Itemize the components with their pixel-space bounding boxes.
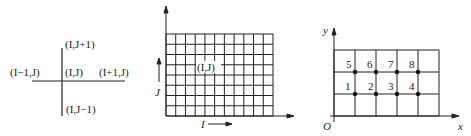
node-dot-icon xyxy=(353,92,357,96)
y-axis-label: y xyxy=(322,24,328,36)
i-axis-label: I xyxy=(200,118,206,130)
node-label-5: 5 xyxy=(346,58,352,70)
node-dot-icon xyxy=(416,92,420,96)
node-label-7: 7 xyxy=(388,58,394,70)
node-dot-icon xyxy=(353,70,357,74)
node-label-8: 8 xyxy=(409,58,415,70)
y-axis-arrow-icon xyxy=(332,28,336,35)
node-label-2: 2 xyxy=(368,80,374,92)
node-dot-icon xyxy=(374,92,378,96)
node-label-4: 4 xyxy=(409,80,415,92)
diagram-canvas: (I,J+1) (I−1,J) (I,J) (I+1,J) (I,J−1) (I… xyxy=(0,0,471,136)
node-label-3: 3 xyxy=(388,80,394,92)
origin-label: O xyxy=(323,120,331,132)
index-grid xyxy=(166,34,273,116)
j-direction-arrow-icon xyxy=(157,58,161,64)
i-direction-arrow-icon xyxy=(226,122,232,126)
stencil-top-label: (I,J+1) xyxy=(65,38,95,51)
x-axis-arrow-icon xyxy=(452,114,459,118)
x-axis-label: x xyxy=(457,120,463,132)
grid-y-axis-arrow-icon xyxy=(164,6,168,13)
numbered-grid-axes xyxy=(330,28,459,122)
stencil-left-label: (I−1,J) xyxy=(10,66,40,79)
node-dot-icon xyxy=(395,92,399,96)
node-dot-icon xyxy=(374,70,378,74)
node-label-1: 1 xyxy=(345,80,351,92)
stencil-center-label: (I,J) xyxy=(65,66,83,79)
cell-label: (I,J) xyxy=(197,61,215,74)
node-label-6: 6 xyxy=(367,58,373,70)
j-axis-label: J xyxy=(155,86,161,98)
node-dot-icon xyxy=(416,70,420,74)
grid-x-axis-arrow-icon xyxy=(287,114,294,118)
stencil-right-label: (I+1,J) xyxy=(99,66,129,79)
stencil-bottom-label: (I,J−1) xyxy=(66,103,96,116)
node-dot-icon xyxy=(395,70,399,74)
